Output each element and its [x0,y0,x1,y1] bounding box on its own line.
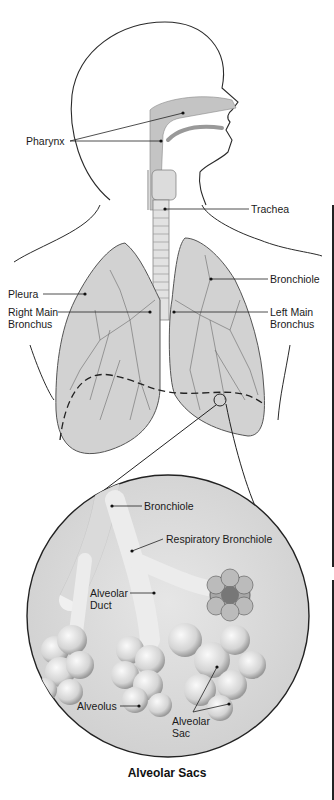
label-bronchiole-inset: Bronchiole [144,500,194,512]
label-pleura: Pleura [8,288,38,300]
alveolar-inset [27,470,309,757]
right-lung [56,243,160,454]
label-alveolus: Alveolus [77,700,117,712]
label-left-main-bronchus: Left Main Bronchus [270,306,314,330]
label-respiratory-bronchiole: Respiratory Bronchiole [166,533,272,545]
label-trachea: Trachea [251,203,289,215]
alveolar-cross-section [207,569,253,621]
label-alveolar-duct: Alveolar Duct [90,587,128,611]
left-lung [169,238,264,436]
figure-caption: Alveolar Sacs [0,766,334,780]
label-right-main-bronchus: Right Main Bronchus [8,306,58,330]
label-bronchiole-upper: Bronchiole [270,273,320,285]
label-alveolar-sac: Alveolar Sac [172,715,210,739]
label-pharynx: Pharynx [26,135,65,147]
respiratory-diagram [0,0,334,800]
